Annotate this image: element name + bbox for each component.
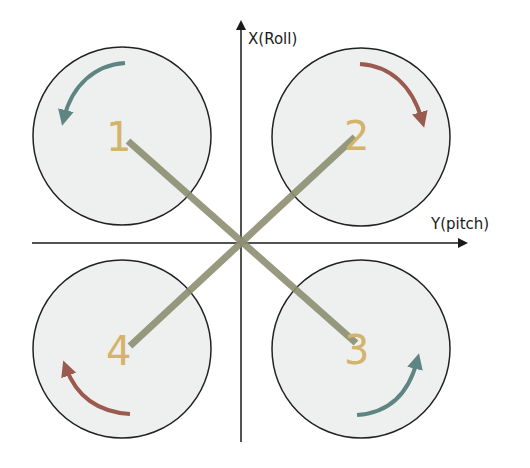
- motor-number-4: 4: [106, 328, 131, 374]
- x-axis-label: X(Roll): [248, 30, 297, 48]
- y-axis-label: Y(pitch): [430, 215, 489, 233]
- quadcopter-diagram: X(Roll) Y(pitch) 1 2 3 4: [0, 0, 530, 468]
- motor-number-3: 3: [344, 327, 369, 373]
- motor-number-2: 2: [344, 113, 369, 159]
- motor-number-1: 1: [106, 114, 131, 160]
